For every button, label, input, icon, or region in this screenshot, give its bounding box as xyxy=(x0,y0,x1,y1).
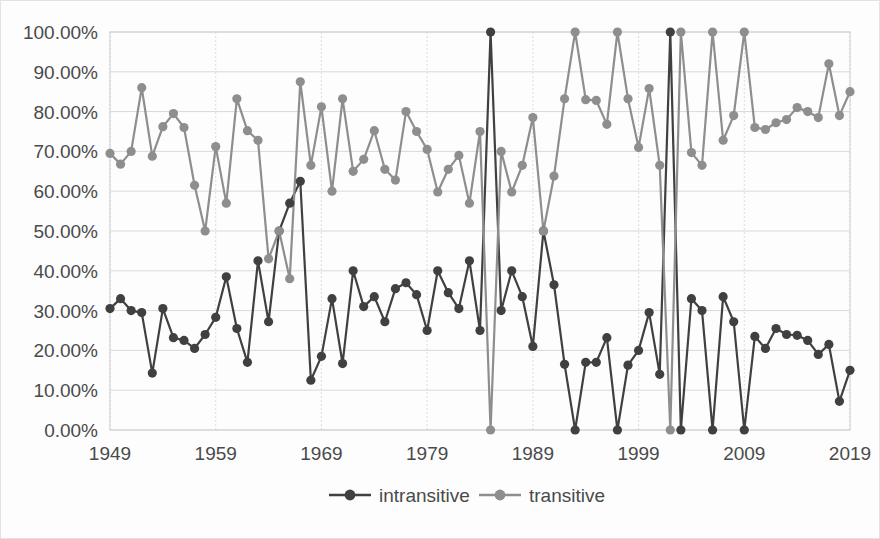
y-axis-tick-label: 80.00% xyxy=(34,102,99,123)
data-point-intransitive xyxy=(338,359,347,368)
data-point-intransitive xyxy=(444,288,453,297)
data-point-transitive xyxy=(105,149,114,158)
data-point-intransitive xyxy=(803,336,812,345)
data-point-intransitive xyxy=(634,346,643,355)
x-axis-tick-label: 1989 xyxy=(512,443,554,464)
data-point-transitive xyxy=(232,94,241,103)
data-point-intransitive xyxy=(592,358,601,367)
data-point-transitive xyxy=(613,27,622,36)
data-point-transitive xyxy=(571,27,580,36)
data-point-intransitive xyxy=(581,358,590,367)
data-point-intransitive xyxy=(793,331,802,340)
data-point-intransitive xyxy=(105,304,114,313)
data-point-intransitive xyxy=(814,350,823,359)
data-point-transitive xyxy=(803,107,812,116)
data-point-transitive xyxy=(391,175,400,184)
data-point-transitive xyxy=(317,102,326,111)
data-point-transitive xyxy=(539,226,548,235)
data-point-intransitive xyxy=(697,306,706,315)
data-point-transitive xyxy=(211,142,220,151)
legend-label-intransitive: intransitive xyxy=(379,485,470,506)
data-point-transitive xyxy=(729,111,738,120)
data-point-intransitive xyxy=(137,308,146,317)
y-axis-tick-label: 70.00% xyxy=(34,141,99,162)
data-point-intransitive xyxy=(560,360,569,369)
y-axis-tick-label: 30.00% xyxy=(34,301,99,322)
data-point-intransitive xyxy=(454,304,463,313)
data-point-transitive xyxy=(454,151,463,160)
data-point-intransitive xyxy=(655,370,664,379)
data-point-transitive xyxy=(296,77,305,86)
y-axis-tick-label: 60.00% xyxy=(34,181,99,202)
data-point-intransitive xyxy=(349,266,358,275)
y-axis-tick-label: 90.00% xyxy=(34,62,99,83)
data-point-intransitive xyxy=(116,294,125,303)
data-point-transitive xyxy=(444,165,453,174)
data-point-intransitive xyxy=(190,344,199,353)
y-axis-tick-label: 0.00% xyxy=(44,420,98,441)
data-point-transitive xyxy=(676,27,685,36)
y-axis-tick-labels: 100.00%90.00%80.00%70.00%60.00%50.00%40.… xyxy=(23,22,98,441)
data-point-intransitive xyxy=(740,425,749,434)
data-point-intransitive xyxy=(571,425,580,434)
data-point-transitive xyxy=(497,147,506,156)
data-point-transitive xyxy=(814,113,823,122)
data-point-transitive xyxy=(740,27,749,36)
data-point-transitive xyxy=(602,120,611,129)
data-point-intransitive xyxy=(433,266,442,275)
data-point-transitive xyxy=(433,187,442,196)
data-point-intransitive xyxy=(761,344,770,353)
data-point-intransitive xyxy=(771,324,780,333)
line-chart: 100.00%90.00%80.00%70.00%60.00%50.00%40.… xyxy=(0,0,880,539)
data-point-intransitive xyxy=(845,366,854,375)
data-point-intransitive xyxy=(211,313,220,322)
y-axis-tick-label: 100.00% xyxy=(23,22,98,43)
data-point-intransitive xyxy=(549,280,558,289)
data-point-transitive xyxy=(687,148,696,157)
data-point-transitive xyxy=(359,155,368,164)
data-point-intransitive xyxy=(645,308,654,317)
data-point-transitive xyxy=(370,126,379,135)
data-point-transitive xyxy=(645,84,654,93)
data-point-intransitive xyxy=(518,292,527,301)
data-point-transitive xyxy=(158,122,167,131)
data-point-intransitive xyxy=(222,272,231,281)
data-point-transitive xyxy=(190,181,199,190)
data-point-intransitive xyxy=(423,326,432,335)
x-axis-tick-label: 1959 xyxy=(195,443,237,464)
data-point-transitive xyxy=(179,123,188,132)
data-point-transitive xyxy=(708,27,717,36)
data-point-transitive xyxy=(518,161,527,170)
data-point-transitive xyxy=(243,126,252,135)
data-point-intransitive xyxy=(623,361,632,370)
data-point-intransitive xyxy=(835,397,844,406)
data-point-transitive xyxy=(201,226,210,235)
data-point-intransitive xyxy=(243,358,252,367)
data-point-transitive xyxy=(771,118,780,127)
data-point-intransitive xyxy=(497,306,506,315)
chart-legend: intransitivetransitive xyxy=(329,485,605,506)
data-point-intransitive xyxy=(359,302,368,311)
data-point-intransitive xyxy=(750,332,759,341)
data-point-intransitive xyxy=(528,342,537,351)
data-point-transitive xyxy=(137,83,146,92)
data-point-transitive xyxy=(655,161,664,170)
chart-canvas: 100.00%90.00%80.00%70.00%60.00%50.00%40.… xyxy=(0,0,880,539)
x-axis-tick-label: 1969 xyxy=(300,443,342,464)
data-point-intransitive xyxy=(486,27,495,36)
data-point-transitive xyxy=(327,187,336,196)
data-point-intransitive xyxy=(169,333,178,342)
data-point-intransitive xyxy=(264,317,273,326)
data-point-intransitive xyxy=(602,333,611,342)
data-point-intransitive xyxy=(729,317,738,326)
data-point-intransitive xyxy=(179,336,188,345)
data-point-intransitive xyxy=(782,330,791,339)
data-point-transitive xyxy=(835,111,844,120)
legend-marker-transitive xyxy=(495,490,506,501)
y-axis-tick-label: 40.00% xyxy=(34,261,99,282)
data-point-transitive xyxy=(338,94,347,103)
data-point-transitive xyxy=(507,187,516,196)
data-point-intransitive xyxy=(465,256,474,265)
data-point-intransitive xyxy=(201,330,210,339)
data-point-intransitive xyxy=(285,199,294,208)
